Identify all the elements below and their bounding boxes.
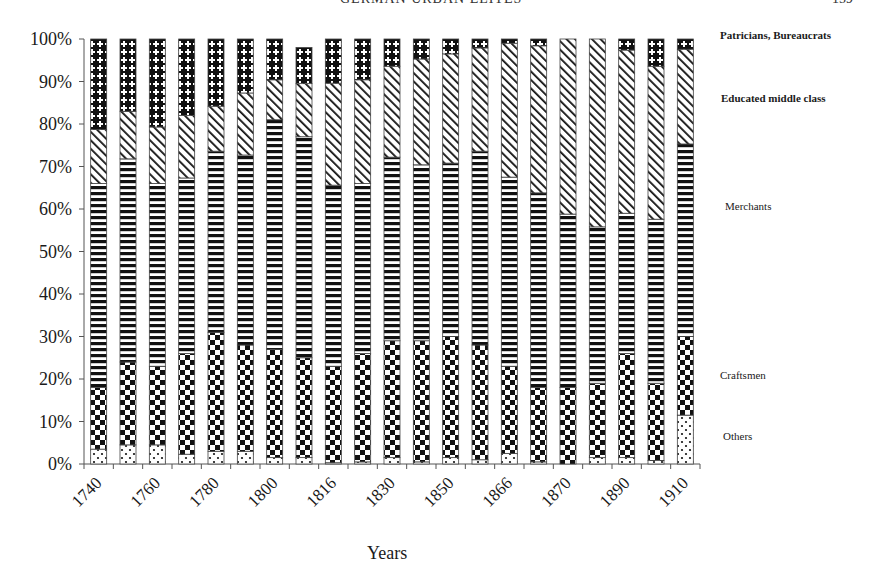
bar-9	[325, 39, 341, 464]
segment-craftsmen	[120, 362, 136, 445]
legend-label-craftsmen: Craftsmen	[720, 369, 766, 381]
segment-educated-middle-class	[149, 127, 165, 184]
segment-educated-middle-class	[237, 93, 253, 155]
stacked-bar-chart: 0%10%20%30%40%50%60%70%80%90%100% 174017…	[0, 0, 871, 582]
segment-others	[91, 449, 107, 464]
segment-patricians-bureaucrats	[443, 39, 459, 54]
segment-educated-middle-class	[677, 49, 693, 144]
y-tick-label: 70%	[39, 157, 72, 177]
segment-merchants	[179, 178, 195, 354]
segment-merchants	[589, 227, 605, 383]
segment-others	[619, 458, 635, 464]
bar-8	[296, 48, 312, 465]
segment-others	[149, 445, 165, 464]
segment-merchants	[501, 177, 517, 366]
x-tick-label: 1800	[244, 473, 281, 510]
segment-merchants	[208, 151, 224, 332]
bar-19	[619, 39, 635, 464]
segment-educated-middle-class	[472, 48, 488, 151]
x-tick-label: 1910	[655, 473, 692, 510]
x-tick-label: 1760	[127, 473, 164, 510]
segment-patricians-bureaucrats	[384, 39, 400, 66]
segment-others	[237, 451, 253, 464]
y-tick-label: 80%	[39, 114, 72, 134]
legend-label-others: Others	[723, 430, 752, 442]
segment-patricians-bureaucrats	[120, 39, 136, 111]
segment-craftsmen	[179, 354, 195, 455]
bar-18	[589, 39, 605, 464]
segment-craftsmen	[149, 366, 165, 445]
segment-others	[267, 458, 283, 464]
legend-label-educated: Educated middle class	[721, 92, 826, 104]
bar-14	[472, 39, 488, 464]
segment-craftsmen	[91, 388, 107, 450]
segment-educated-middle-class	[325, 83, 341, 185]
segment-merchants	[619, 213, 635, 353]
bar-21	[677, 39, 693, 464]
segment-merchants	[648, 219, 664, 383]
segment-educated-middle-class	[531, 46, 547, 193]
segment-patricians-bureaucrats	[413, 39, 429, 59]
segment-educated-middle-class	[413, 59, 429, 165]
bars-group	[91, 39, 694, 464]
segment-merchants	[91, 184, 107, 388]
segment-craftsmen	[531, 388, 547, 462]
y-tick-label: 30%	[39, 327, 72, 347]
bar-12	[413, 39, 429, 464]
segment-craftsmen	[619, 354, 635, 458]
segment-patricians-bureaucrats	[267, 39, 283, 80]
segment-others	[648, 461, 664, 464]
x-tick-label: 1850	[420, 473, 457, 510]
segment-patricians-bureaucrats	[501, 39, 517, 43]
y-tick-label: 40%	[39, 284, 72, 304]
segment-merchants	[413, 165, 429, 341]
segment-patricians-bureaucrats	[325, 39, 341, 83]
segment-merchants	[443, 163, 459, 336]
segment-others	[472, 460, 488, 464]
segment-merchants	[560, 214, 576, 387]
bar-7	[267, 39, 283, 464]
segment-others	[677, 415, 693, 464]
segment-others	[296, 458, 312, 464]
bar-16	[531, 39, 547, 464]
segment-others	[589, 458, 605, 464]
bar-15	[501, 39, 517, 464]
x-tick-label: 1780	[185, 473, 222, 510]
bar-3	[149, 39, 165, 464]
bar-2	[120, 39, 136, 464]
bar-1	[91, 39, 107, 464]
x-tick-label: 1866	[479, 473, 516, 510]
segment-merchants	[237, 155, 253, 345]
segment-patricians-bureaucrats	[149, 39, 165, 127]
segment-educated-middle-class	[648, 66, 664, 219]
segment-educated-middle-class	[560, 39, 576, 214]
segment-educated-middle-class	[355, 80, 371, 184]
segment-patricians-bureaucrats	[355, 39, 371, 80]
segment-craftsmen	[208, 332, 224, 451]
segment-craftsmen	[296, 358, 312, 458]
segment-educated-middle-class	[91, 130, 107, 184]
segment-educated-middle-class	[120, 111, 136, 159]
segment-craftsmen	[589, 383, 605, 457]
y-tick-label: 10%	[39, 412, 72, 432]
x-axis-ticks: 1740176017801800181618301850186618701890…	[68, 464, 700, 511]
segment-merchants	[355, 184, 371, 354]
segment-educated-middle-class	[296, 84, 312, 137]
segment-others	[384, 458, 400, 464]
legend-label-patricians: Patricians, Bureaucrats	[720, 29, 831, 41]
bar-10	[355, 39, 371, 464]
segment-merchants	[677, 144, 693, 337]
segment-craftsmen	[443, 337, 459, 458]
y-tick-label: 20%	[39, 369, 72, 389]
segment-others	[120, 445, 136, 464]
segment-craftsmen	[501, 366, 517, 453]
y-axis-ticks: 0%10%20%30%40%50%60%70%80%90%100%	[30, 29, 84, 474]
y-tick-label: 0%	[48, 454, 72, 474]
segment-educated-middle-class	[443, 54, 459, 163]
segment-others	[208, 451, 224, 464]
segment-educated-middle-class	[501, 43, 517, 177]
segment-merchants	[472, 151, 488, 345]
segment-craftsmen	[384, 341, 400, 458]
bar-20	[648, 39, 664, 464]
bar-17	[560, 39, 576, 464]
